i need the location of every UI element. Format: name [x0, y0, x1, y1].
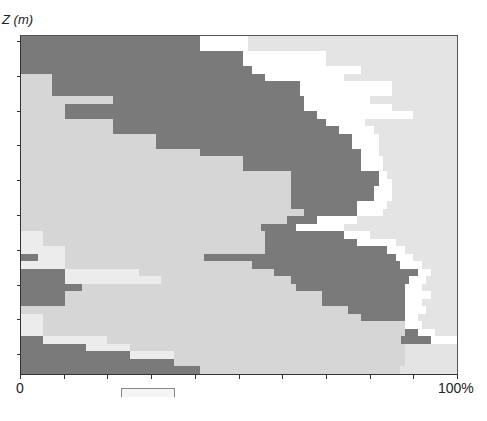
x-tick	[457, 375, 458, 379]
y-tick	[17, 250, 21, 251]
x-tick	[239, 375, 240, 379]
y-axis-label: Z (m)	[2, 12, 33, 27]
x-tick	[107, 375, 108, 379]
segment-light	[200, 366, 401, 374]
x-tick-label-end: 100%	[438, 380, 474, 396]
y-tick	[17, 354, 21, 355]
y-tick	[17, 285, 21, 286]
x-tick	[64, 375, 65, 379]
profile-row	[21, 366, 457, 374]
x-tick-label-start: 0	[16, 380, 24, 396]
y-tick	[17, 180, 21, 181]
x-tick	[151, 375, 152, 379]
x-tick	[20, 375, 21, 379]
x-tick	[370, 375, 371, 379]
segment-faint	[400, 366, 457, 374]
y-tick	[17, 145, 21, 146]
x-tick	[413, 375, 414, 379]
y-tick	[17, 319, 21, 320]
y-tick	[17, 76, 21, 77]
y-tick	[17, 111, 21, 112]
y-tick	[17, 41, 21, 42]
x-tick	[326, 375, 327, 379]
plot-area	[20, 35, 458, 375]
legend-box	[121, 388, 175, 397]
x-tick	[195, 375, 196, 379]
x-tick	[282, 375, 283, 379]
y-tick	[17, 215, 21, 216]
segment-dark	[21, 366, 200, 374]
